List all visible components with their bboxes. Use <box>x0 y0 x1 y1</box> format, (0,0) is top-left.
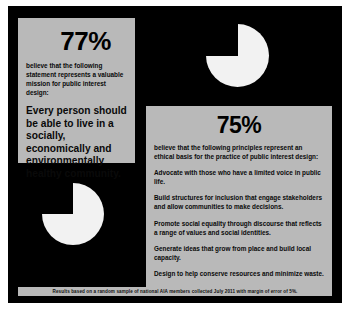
infographic-poster: 77% believe that the following statement… <box>0 0 361 319</box>
pie-chart-75 <box>42 183 104 245</box>
right-panel-lede: believe that the following principles re… <box>154 143 324 161</box>
pie-chart-75-wrapper <box>14 166 144 296</box>
principle-item: Generate ideas that grow from place and … <box>154 244 324 262</box>
right-stat-panel: 75% believe that the following principle… <box>146 106 332 288</box>
pie-missing-wedge <box>206 24 238 56</box>
left-panel-lede: believe that the following statement rep… <box>26 61 127 97</box>
stat-77-percent: 77% <box>26 28 127 54</box>
footnote-bar: Results based on a random sample of nati… <box>18 287 332 296</box>
principle-item: Advocate with those who have a limited v… <box>154 168 324 186</box>
poster-canvas: 77% believe that the following statement… <box>8 6 342 303</box>
pie-missing-wedge <box>42 183 73 214</box>
stat-75-percent: 75% <box>154 114 324 137</box>
principle-item: Design to help conserve resources and mi… <box>154 269 324 278</box>
mission-statement: Every person should be able to live in a… <box>26 105 127 180</box>
pie-chart-77 <box>206 24 269 87</box>
principle-item: Build structures for inclusion that enga… <box>154 193 324 211</box>
left-stat-panel: 77% believe that the following statement… <box>18 18 135 163</box>
principle-item: Promote social equality through discours… <box>154 219 324 237</box>
methodology-footnote: Results based on a random sample of nati… <box>18 287 332 296</box>
